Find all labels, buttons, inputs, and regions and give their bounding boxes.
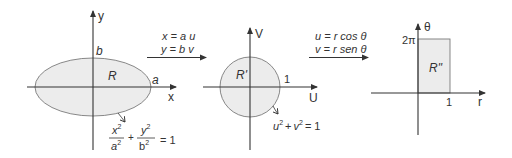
region-r-double-prime-label: R" [429,61,443,75]
a-intercept-label: a [152,73,159,87]
svg-text:+: + [128,132,134,143]
v-axis-label: V [255,27,263,41]
b-intercept-label: b [96,44,103,58]
u-axis-label: U [309,91,318,105]
transform1-line2: y = b v [160,43,195,55]
region-r-label: R [108,69,117,83]
radius-one-label: 1 [284,73,290,85]
x-axis-label: x [168,90,174,104]
panel-r-theta-rectangle: θ r 2π 1 R" [371,20,485,135]
change-of-variables-diagram: y x b a R x2 a2 + y2 b2 = 1 x = a u y = … [0,0,512,158]
pointer-arrow-icon [273,106,278,114]
transform-xy-to-uv: x = a u y = b v [147,30,206,58]
region-r-prime-label: R' [236,68,248,82]
svg-text:a2: a2 [111,139,121,152]
theta-axis-label: θ [424,20,431,34]
pointer-arrow-icon [118,113,125,122]
svg-text:b2: b2 [139,139,149,152]
circle-equation: u2+v2= 1 [273,119,320,132]
svg-text:y2: y2 [140,123,151,136]
svg-text:x2: x2 [111,123,122,136]
transform-uv-to-polar: u = r cos θ v = r sen θ [309,30,368,58]
y-axis-label: y [98,9,104,23]
transform1-line1: x = a u [161,30,195,42]
panel-uv-disk: V U R' 1 u2+v2= 1 [203,27,320,150]
panel-xy-ellipse: y x b a R x2 a2 + y2 b2 = 1 [27,9,176,152]
r-one-label: 1 [446,96,452,108]
transform2-line2: v = r sen θ [315,43,367,55]
svg-text:= 1: = 1 [160,134,176,146]
r-axis-label: r [478,95,482,109]
ellipse-equation: x2 a2 + y2 b2 = 1 [109,123,176,152]
two-pi-label: 2π [402,34,416,46]
transform2-line1: u = r cos θ [315,30,367,42]
